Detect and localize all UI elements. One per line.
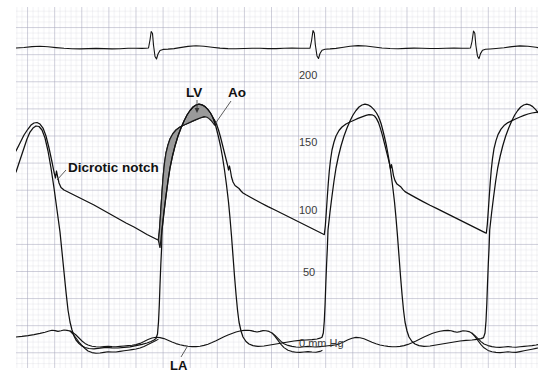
y-tick-100: 100 <box>299 204 317 216</box>
hemodynamic-tracing-figure: 200 150 100 50 0 mm Hg LV Ao Dicrotic no… <box>0 0 543 382</box>
y-tick-50: 50 <box>303 266 315 278</box>
pressure-tracing-chart: 200 150 100 50 0 mm Hg LV Ao Dicrotic no… <box>0 0 543 382</box>
annotation-ao-label: Ao <box>228 85 246 100</box>
grid-background <box>16 7 538 368</box>
y-tick-200: 200 <box>299 69 317 81</box>
annotation-lv-label: LV <box>186 85 202 100</box>
annotation-dicrotic-notch-label: Dicrotic notch <box>68 160 159 175</box>
y-tick-zero-mmhg: 0 mm Hg <box>299 337 344 349</box>
y-tick-150: 150 <box>299 136 317 148</box>
annotation-la-label: LA <box>170 358 188 373</box>
